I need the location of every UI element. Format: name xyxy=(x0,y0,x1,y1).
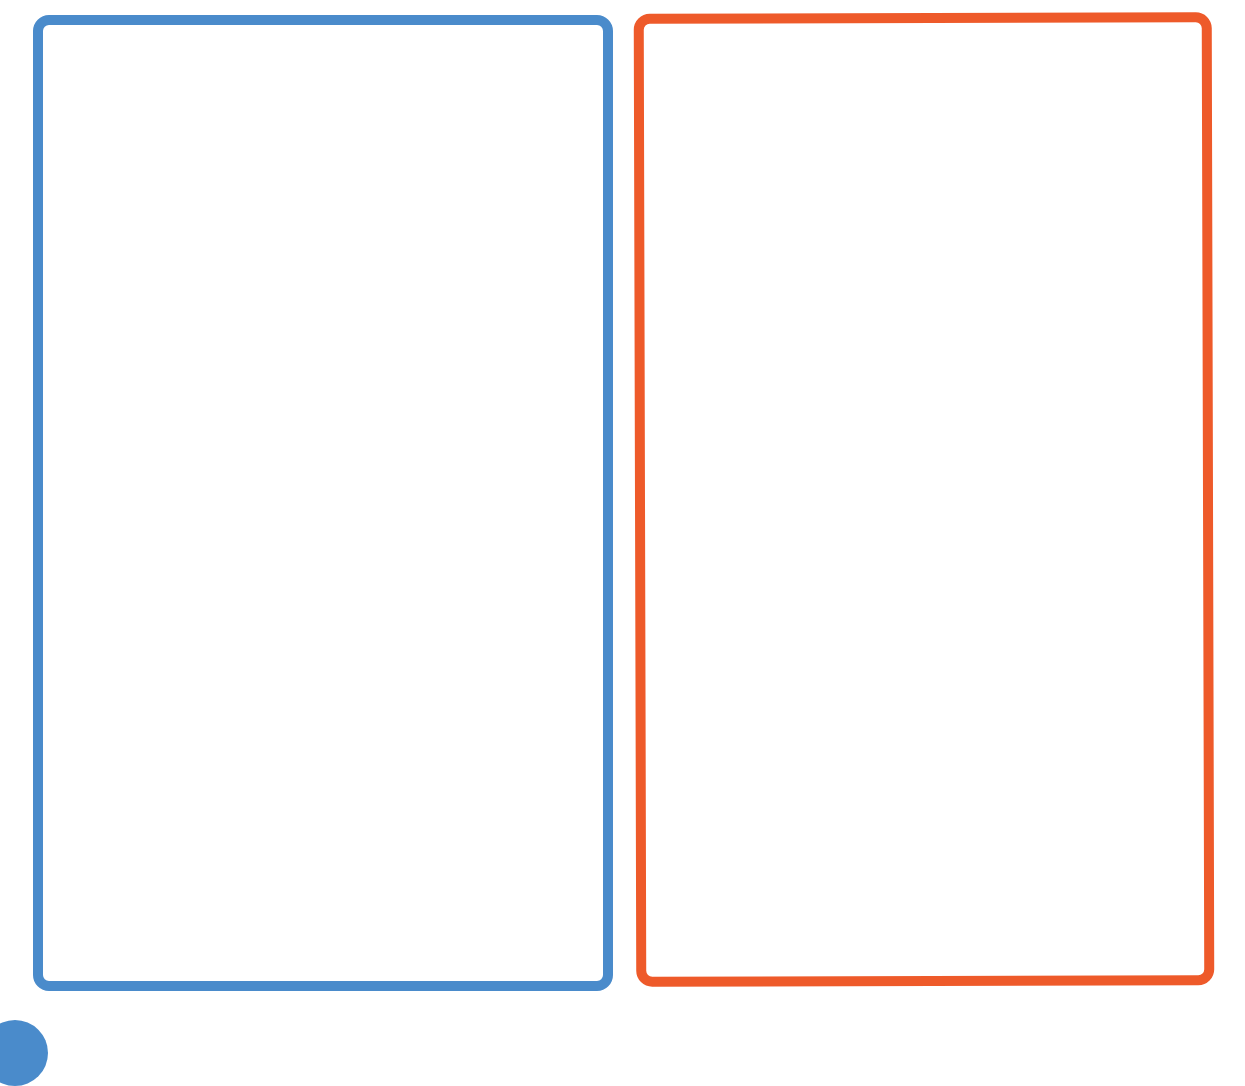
orange-frame-panel xyxy=(634,12,1215,987)
blue-frame-panel xyxy=(33,15,613,991)
corner-circle-marker xyxy=(0,1020,48,1086)
orange-frame-label xyxy=(644,24,645,25)
blue-frame-label xyxy=(43,25,44,26)
